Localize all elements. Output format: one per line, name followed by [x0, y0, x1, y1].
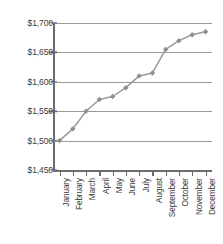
line-chart: $1,700$1,650$1,600$1,550$1,500$1,450 Jan… [0, 0, 223, 244]
data-point-november [190, 32, 195, 37]
data-point-december [203, 29, 208, 34]
series-line [60, 32, 206, 141]
data-series-layer [0, 0, 223, 244]
series-markers [57, 29, 208, 143]
